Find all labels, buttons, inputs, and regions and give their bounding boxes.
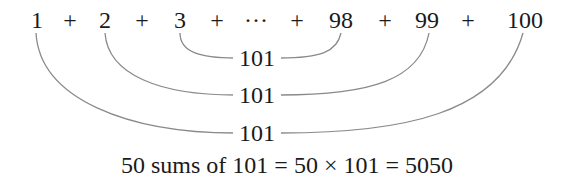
plus-sign: + — [378, 6, 392, 34]
term-1: 1 — [31, 6, 43, 34]
pair-sum-label-middle: 101 — [233, 82, 281, 108]
plus-sign: + — [290, 6, 304, 34]
ellipsis: ··· — [244, 6, 268, 34]
term-3: 3 — [174, 6, 186, 34]
term-99: 99 — [415, 6, 439, 34]
plus-sign: + — [63, 6, 77, 34]
pair-sum-label-outer: 101 — [233, 120, 281, 146]
plus-sign: + — [135, 6, 149, 34]
term-2: 2 — [99, 6, 111, 34]
conclusion-equation: 50 sums of 101 = 50 × 101 = 5050 — [121, 152, 453, 179]
term-98: 98 — [329, 6, 353, 34]
pair-sum-label-inner: 101 — [233, 45, 281, 71]
plus-sign: + — [461, 6, 475, 34]
term-100: 100 — [507, 6, 543, 34]
plus-sign: + — [210, 6, 224, 34]
